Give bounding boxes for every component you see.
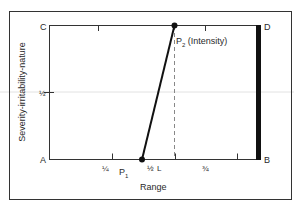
y-tick-label: ½ xyxy=(39,89,46,98)
p2-label: P2 (Intensity) xyxy=(176,36,227,48)
corner-d-label: D xyxy=(264,22,271,32)
y-axis-label: Severity-irritability-nature xyxy=(17,42,27,142)
limit-marker-label: L xyxy=(157,164,162,173)
corner-c-label: C xyxy=(40,22,47,32)
corner-b-label: B xyxy=(264,155,270,165)
x-tick-label-quarter: ¼ xyxy=(102,164,109,173)
x-axis-label: Range xyxy=(140,182,167,192)
intensity-bar xyxy=(256,25,261,160)
x-tick-label-three-quarter: ¾ xyxy=(202,164,209,173)
p1-point xyxy=(139,157,145,163)
corner-a-label: A xyxy=(40,155,46,165)
diagram: C D A B ½ ¼ ½ L ¾ P1 P2 (Intensity) Rang… xyxy=(0,0,294,211)
p2-point xyxy=(172,23,178,29)
x-ticks xyxy=(113,154,238,160)
p1-label: P1 xyxy=(119,167,129,179)
x-tick-label-half: ½ xyxy=(147,164,154,173)
